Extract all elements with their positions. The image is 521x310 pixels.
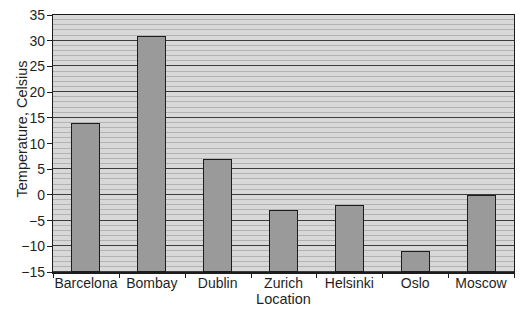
y-tick-label: 20 [0,84,45,100]
y-tick-mark [47,194,53,195]
x-tick-label-oslo: Oslo [382,276,448,291]
y-tick-mark [47,66,53,67]
y-tick-mark [47,246,53,247]
y-tick-mark [47,92,53,93]
bar-dublin [203,159,232,272]
bar-zurich [269,210,298,272]
y-tick-mark [47,117,53,118]
x-axis-title: Location [53,292,514,307]
y-tick-mark [47,169,53,170]
y-tick-label: 0 [0,187,45,203]
x-tick-label-zurich: Zurich [251,276,317,291]
y-tick-label: 10 [0,136,45,152]
x-tick-label-barcelona: Barcelona [53,276,119,291]
y-tick-mark [47,15,53,16]
y-tick-label: 15 [0,110,45,126]
bar-helsinki [335,205,364,272]
x-tick-mark [514,274,515,278]
x-tick-label-bombay: Bombay [119,276,185,291]
x-tick-label-helsinki: Helsinki [316,276,382,291]
y-tick-label: −15 [0,264,45,280]
y-tick-mark [47,143,53,144]
y-tick-mark [47,220,53,221]
bar-moscow [467,195,496,272]
y-tick-mark [47,40,53,41]
y-tick-label: −10 [0,238,45,254]
x-tick-label-moscow: Moscow [448,276,514,291]
y-tick-mark [47,272,53,273]
y-tick-label: 30 [0,33,45,49]
x-tick-label-dublin: Dublin [185,276,251,291]
y-tick-label: 5 [0,161,45,177]
chart: Temperature, Celsius 35302520151050−5−10… [0,0,521,310]
y-tick-label: 25 [0,58,45,74]
bar-bombay [137,36,166,272]
bar-barcelona [71,123,100,272]
y-tick-label: 35 [0,7,45,23]
y-tick-label: −5 [0,213,45,229]
bar-oslo [401,251,430,272]
